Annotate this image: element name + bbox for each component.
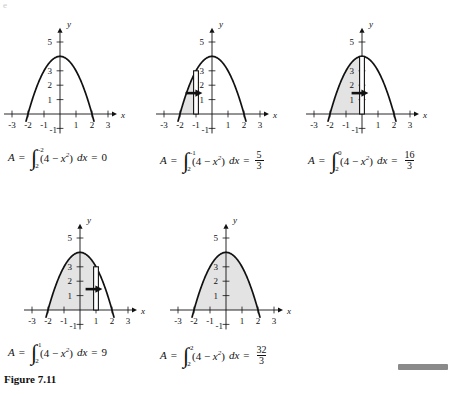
lower-limit-1: -2 <box>33 163 39 170</box>
integral-3: ∫ 0 -2 <box>331 153 337 169</box>
x-tick-label: 1 <box>226 120 231 130</box>
fraction-denominator: 3 <box>257 355 266 366</box>
integrand-2: (4 − x2) <box>192 155 225 167</box>
x-axis-label: x <box>120 110 125 120</box>
result-1: 0 <box>102 152 108 163</box>
integrand-3: (4 − x2) <box>340 155 373 167</box>
formula-1: A = ∫ -2 -2 (4 − x2) dx = 0 <box>8 150 107 166</box>
y-tick-label: 2 <box>200 80 205 90</box>
equals-sign: = <box>169 155 179 166</box>
fraction-numerator: 32 <box>255 345 269 355</box>
area-symbol: A <box>308 155 315 166</box>
dx-1: dx <box>77 152 87 163</box>
y-tick-label: 2 <box>350 80 355 90</box>
x-axis-arrowhead <box>132 307 137 312</box>
x-axis-label: x <box>286 306 291 316</box>
y-tick-label: 2 <box>48 80 53 90</box>
dx-5: dx <box>229 350 239 361</box>
y-tick-label: 5 <box>200 37 205 47</box>
formula-4: A = ∫ 1 -2 (4 − x2) dx = 9 <box>8 345 107 361</box>
fraction-denominator: 3 <box>255 160 264 171</box>
y-axis-label: y <box>218 19 223 29</box>
y-axis-arrowhead <box>209 28 214 33</box>
dx-2: dx <box>229 155 239 166</box>
y-tick-label: 5 <box>350 37 355 47</box>
plot-svg-5: xy-3-2-11231235-1 <box>168 208 318 334</box>
gray-rule-bar <box>398 364 448 370</box>
upper-limit-4: 1 <box>38 342 42 349</box>
integral-1: ∫ -2 -2 <box>31 150 37 166</box>
x-tick-label: -3 <box>28 316 36 326</box>
area-symbol: A <box>8 347 15 358</box>
fraction-denominator: 3 <box>405 160 414 171</box>
x-axis-label: x <box>422 110 427 120</box>
plot-panel-2: xy-3-2-11231235-1 <box>154 12 304 138</box>
x-tick-label: 3 <box>258 120 263 130</box>
x-axis-label: x <box>140 306 145 316</box>
y-axis-arrowhead <box>57 28 62 33</box>
x-tick-label: -1 <box>342 120 350 130</box>
y-tick-label-negative: -1 <box>70 321 78 331</box>
result-equals-1: = <box>89 152 99 163</box>
lower-limit-2: -2 <box>185 166 191 173</box>
y-tick-label: 1 <box>350 95 355 105</box>
lower-limit-3: -2 <box>333 166 339 173</box>
y-axis-arrowhead <box>223 224 228 229</box>
x-tick-label: 3 <box>126 316 131 326</box>
integrand-close: ) <box>221 155 225 167</box>
plot-svg-2: xy-3-2-11231235-1 <box>154 12 304 138</box>
integrand-open: (4 − <box>192 350 213 362</box>
x-tick-label: 3 <box>106 120 111 130</box>
x-tick-label: -1 <box>206 316 214 326</box>
upper-limit-3: 0 <box>338 150 342 157</box>
area-symbol: A <box>160 155 167 166</box>
x-tick-label: 1 <box>94 316 99 326</box>
result-fraction-5: 32 3 <box>255 345 269 366</box>
result-equals-2: = <box>241 155 251 166</box>
x-axis-label: x <box>272 110 277 120</box>
result-equals-5: = <box>241 350 251 361</box>
equals-sign: = <box>17 152 27 163</box>
formula-5: A = ∫ 2 -2 (4 − x2) dx = 32 3 <box>160 345 269 366</box>
equals-sign: = <box>17 347 27 358</box>
integrand-close: ) <box>221 350 225 362</box>
integrand-open: (4 − <box>340 155 361 167</box>
integral-2: ∫ -1 -2 <box>183 153 189 169</box>
y-axis-label: y <box>66 19 71 29</box>
upper-limit-5: 2 <box>190 345 194 352</box>
y-tick-label: 5 <box>214 233 219 243</box>
y-axis-arrowhead <box>77 224 82 229</box>
y-tick-label: 1 <box>68 291 73 301</box>
integral-4: ∫ 1 -2 <box>31 345 37 361</box>
equals-sign: = <box>317 155 327 166</box>
result-equals-3: = <box>389 155 399 166</box>
integrand-close: ) <box>69 152 73 164</box>
x-tick-label: 1 <box>74 120 79 130</box>
plot-svg-1: xy-3-2-11231235-1 <box>2 12 152 138</box>
y-tick-label: 5 <box>68 233 73 243</box>
y-tick-label: 1 <box>200 95 205 105</box>
fraction-numerator: 5 <box>255 150 264 160</box>
y-axis-label: y <box>232 215 237 225</box>
x-tick-label: -1 <box>60 316 68 326</box>
dx-4: dx <box>77 347 87 358</box>
upper-limit-1: -2 <box>38 147 44 154</box>
x-tick-label: -3 <box>310 120 318 130</box>
y-axis-label: y <box>368 19 373 29</box>
plot-panel-4: xy-3-2-11231235-1 <box>22 208 172 334</box>
y-tick-label: 1 <box>214 291 219 301</box>
integral-5: ∫ 2 -2 <box>183 348 189 364</box>
y-axis-label: y <box>86 215 91 225</box>
figure-container: e xy-3-2-11231235-1 A = ∫ -2 -2 (4 − x2)… <box>0 0 454 397</box>
dx-3: dx <box>377 155 387 166</box>
plot-panel-5: xy-3-2-11231235-1 <box>168 208 318 334</box>
x-tick-label: -1 <box>192 120 200 130</box>
plot-svg-4: xy-3-2-11231235-1 <box>22 208 172 334</box>
y-tick-label-negative: -1 <box>202 125 210 135</box>
equals-sign: = <box>169 350 179 361</box>
upper-limit-2: -1 <box>190 150 196 157</box>
y-tick-label-negative: -1 <box>50 125 58 135</box>
integrand-4: (4 − x2) <box>40 347 73 359</box>
x-tick-label: -1 <box>40 120 48 130</box>
plot-svg-3: xy-3-2-11231235-1 <box>304 12 454 138</box>
